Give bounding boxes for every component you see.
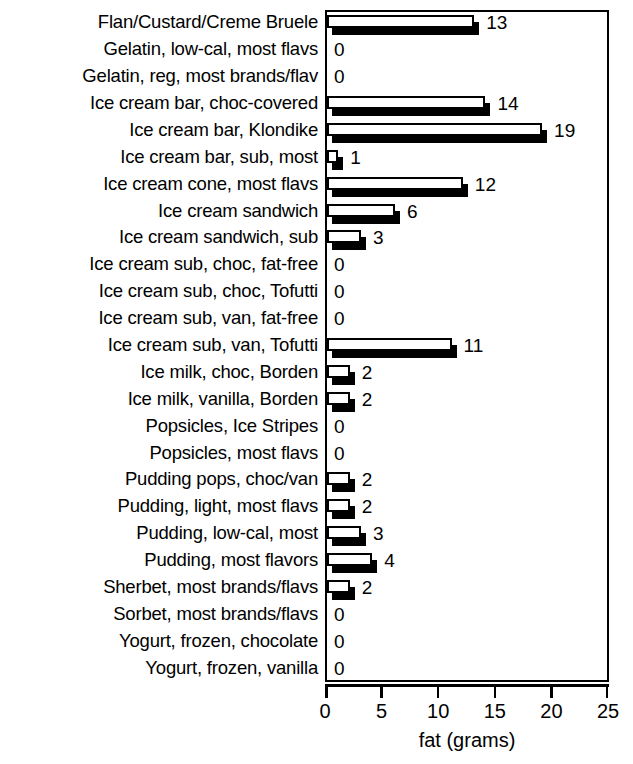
category-label: Pudding, light, most flavs — [0, 496, 318, 516]
category-label: Sherbet, most brands/flavs — [0, 577, 318, 597]
x-axis-tick — [494, 684, 497, 698]
bar-face — [327, 150, 338, 163]
category-label: Gelatin, reg, most brands/flav — [0, 66, 318, 86]
fat-grams-bar-chart: Flan/Custard/Creme BrueleGelatin, low-ca… — [0, 0, 633, 764]
x-axis-line — [325, 684, 609, 687]
bar-face — [327, 553, 372, 566]
x-axis — [325, 684, 609, 700]
category-label: Gelatin, low-cal, most flavs — [0, 39, 318, 59]
x-axis-tick-label: 0 — [319, 699, 330, 723]
bar-face — [327, 526, 361, 539]
category-label: Sorbet, most brands/flavs — [0, 604, 318, 624]
bar — [327, 580, 607, 601]
category-label: Ice cream bar, sub, most — [0, 147, 318, 167]
x-axis-tick-label: 10 — [427, 699, 449, 723]
category-label: Popsicles, Ice Stripes — [0, 416, 318, 436]
bar-face — [327, 580, 350, 593]
bar-face — [327, 123, 542, 136]
bar-face — [327, 230, 361, 243]
bar — [327, 365, 607, 386]
bar — [327, 15, 607, 36]
bar-face — [327, 15, 474, 28]
x-axis-tick-label: 20 — [540, 699, 562, 723]
category-label: Ice milk, choc, Borden — [0, 362, 318, 382]
bars-container — [327, 12, 607, 680]
category-label: Ice milk, vanilla, Borden — [0, 389, 318, 409]
plot-area — [325, 10, 609, 682]
category-label: Ice cream bar, Klondike — [0, 120, 318, 140]
bar-face — [327, 472, 350, 485]
bar-face — [327, 177, 463, 190]
x-axis-tick — [606, 684, 609, 698]
bar — [327, 96, 607, 117]
x-axis-tick — [380, 684, 383, 698]
bar-face — [327, 392, 350, 405]
x-axis-tick — [325, 684, 328, 698]
bar — [327, 526, 607, 547]
category-label: Pudding pops, choc/van — [0, 469, 318, 489]
category-label: Popsicles, most flavs — [0, 443, 318, 463]
bar — [327, 392, 607, 413]
bar-face — [327, 365, 350, 378]
category-label: Yogurt, frozen, chocolate — [0, 631, 318, 651]
x-axis-title: fat (grams) — [325, 728, 609, 752]
category-label: Ice cream sub, van, fat-free — [0, 308, 318, 328]
category-label: Ice cream bar, choc-covered — [0, 93, 318, 113]
bar — [327, 499, 607, 520]
category-label: Ice cream sandwich, sub — [0, 227, 318, 247]
category-label: Yogurt, frozen, vanilla — [0, 658, 318, 678]
bar-face — [327, 499, 350, 512]
bar — [327, 338, 607, 359]
category-label: Pudding, low-cal, most — [0, 523, 318, 543]
bar-face — [327, 96, 485, 109]
bar — [327, 472, 607, 493]
bar-face — [327, 204, 395, 217]
category-label: Ice cream sub, choc, fat-free — [0, 254, 318, 274]
x-axis-tick-labels: 0510152025 — [325, 699, 609, 725]
category-label: Ice cream cone, most flavs — [0, 174, 318, 194]
category-label: Ice cream sub, choc, Tofutti — [0, 281, 318, 301]
bar — [327, 123, 607, 144]
x-axis-tick-label: 15 — [484, 699, 506, 723]
category-label: Pudding, most flavors — [0, 550, 318, 570]
bar — [327, 230, 607, 251]
x-axis-tick-label: 5 — [376, 699, 387, 723]
category-axis-labels: Flan/Custard/Creme BrueleGelatin, low-ca… — [0, 10, 318, 682]
bar-face — [327, 338, 452, 351]
bar — [327, 204, 607, 225]
x-axis-tick — [437, 684, 440, 698]
bar — [327, 553, 607, 574]
x-axis-tick-label: 25 — [597, 699, 619, 723]
category-label: Ice cream sub, van, Tofutti — [0, 335, 318, 355]
x-axis-tick — [550, 684, 553, 698]
category-label: Ice cream sandwich — [0, 201, 318, 221]
bar — [327, 150, 607, 171]
bar — [327, 177, 607, 198]
category-label: Flan/Custard/Creme Bruele — [0, 12, 318, 32]
